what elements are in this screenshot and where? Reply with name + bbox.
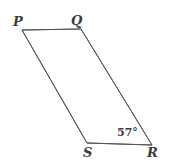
vertex-label-r: R [147, 146, 158, 159]
geometry-figure-canvas: P Q R S 57° [0, 0, 170, 167]
vertex-label-p: P [13, 15, 23, 28]
edge-rs [87, 143, 152, 145]
vertex-label-s: S [83, 146, 92, 159]
edge-sp [22, 30, 87, 143]
angle-measure-label-r: 57° [117, 127, 138, 138]
parallelogram-diagram [0, 0, 170, 167]
vertex-label-q: Q [71, 14, 82, 27]
edge-pq [22, 29, 81, 30]
